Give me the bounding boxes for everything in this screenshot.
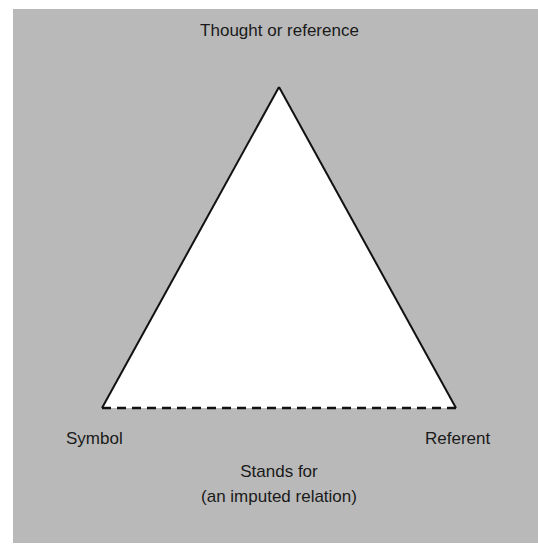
node-thought-or-reference: Thought or reference	[0, 21, 538, 41]
base-edge-label-line1: Stands for	[20, 459, 538, 484]
base-edge-label: Stands for (an imputed relation)	[0, 459, 538, 509]
node-symbol: Symbol	[66, 429, 123, 449]
triangle-fill	[102, 87, 456, 408]
node-referent: Referent	[425, 429, 490, 449]
base-edge-label-line2: (an imputed relation)	[20, 484, 538, 509]
